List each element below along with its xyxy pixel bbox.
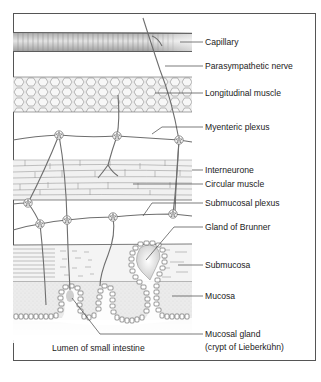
label-submucosal-plexus: Submucosal plexus bbox=[205, 198, 280, 208]
label-submucosa: Submucosa bbox=[205, 260, 251, 270]
label-crypt-of-lieberkuhn: (crypt of Lieberkühn) bbox=[205, 342, 284, 352]
label-circular-muscle: Circular muscle bbox=[205, 179, 264, 189]
label-longitudinal-muscle: Longitudinal muscle bbox=[205, 88, 281, 98]
capillary-shape bbox=[13, 32, 192, 52]
label-interneurone: Interneurone bbox=[205, 165, 254, 175]
label-capillary: Capillary bbox=[205, 37, 239, 47]
label-mucosa: Mucosa bbox=[205, 291, 235, 301]
label-lumen: Lumen of small intestine bbox=[52, 343, 145, 353]
intestinal-wall-diagram: Capillary Parasympathetic nerve Longitud… bbox=[0, 0, 321, 382]
label-parasympathetic-nerve: Parasympathetic nerve bbox=[205, 61, 293, 71]
label-myenteric-plexus: Myenteric plexus bbox=[205, 122, 269, 132]
longitudinal-muscle-layer bbox=[13, 77, 192, 112]
label-mucosal-gland: Mucosal gland bbox=[205, 329, 261, 339]
label-gland-of-brunner: Gland of Brunner bbox=[205, 222, 271, 232]
